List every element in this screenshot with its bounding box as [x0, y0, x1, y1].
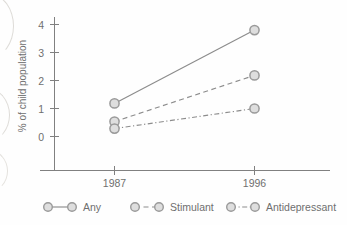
- data-point-any-1996: [250, 26, 259, 35]
- series-line-any: [115, 30, 255, 103]
- y-axis-tick-labels: 4 3 2 1 0: [38, 19, 44, 143]
- series-line-stimulant: [115, 75, 255, 121]
- y-tick-label-0: 0: [38, 131, 44, 143]
- series-lines: [115, 30, 255, 129]
- y-tick-label-1: 1: [38, 103, 44, 115]
- legend-label-stimulant: Stimulant: [170, 201, 214, 213]
- y-tick-label-2: 2: [38, 75, 44, 87]
- data-point-any-1987: [110, 99, 119, 108]
- x-axis-tick-labels: 1987 1996: [103, 177, 267, 189]
- legend-marker-any-left: [44, 203, 53, 212]
- legend-marker-antidepressant-right: [251, 203, 260, 212]
- y-tick-label-4: 4: [38, 19, 44, 31]
- x-tick-label-1996: 1996: [243, 177, 267, 189]
- line-chart: 4 3 2 1 0 % of child population 1987 199…: [0, 0, 347, 225]
- data-point-markers: [110, 26, 259, 134]
- series-line-antidepressant: [115, 109, 255, 129]
- legend-item-any[interactable]: Any: [44, 201, 102, 213]
- legend-marker-stimulant-left: [131, 203, 140, 212]
- legend-item-stimulant[interactable]: Stimulant: [131, 201, 214, 213]
- data-point-antidepressant-1996: [250, 104, 259, 113]
- chart-legend: Any Stimulant Antidepressant: [44, 201, 336, 213]
- legend-item-antidepressant[interactable]: Antidepressant: [227, 201, 336, 213]
- x-tick-label-1987: 1987: [103, 177, 127, 189]
- legend-marker-stimulant-right: [155, 203, 164, 212]
- y-axis-title: % of child population: [17, 40, 28, 132]
- legend-marker-any-right: [68, 203, 77, 212]
- legend-label-any: Any: [83, 201, 102, 213]
- data-point-stimulant-1996: [250, 71, 259, 80]
- chart-page: 4 3 2 1 0 % of child population 1987 199…: [0, 0, 347, 225]
- y-tick-label-3: 3: [38, 47, 44, 59]
- data-point-antidepressant-1987: [110, 124, 119, 133]
- legend-marker-antidepressant-left: [227, 203, 236, 212]
- legend-label-antidepressant: Antidepressant: [266, 201, 336, 213]
